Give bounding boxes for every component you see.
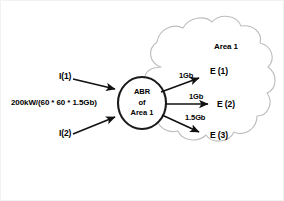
input-label-2: I(2) (59, 129, 71, 138)
input-arrow-1 (73, 79, 115, 89)
formula-label: 200kW/(60 * 60 * 1.5Gb) (11, 99, 97, 107)
diagram-canvas: Area 1 ABR of Area 1 200kW/(60 * 60 * 1.… (0, 0, 284, 201)
input-arrow-2 (73, 117, 115, 134)
cloud-shape (144, 16, 275, 141)
router-label-line-1: ABR (119, 87, 165, 98)
output-rate-1: 1Gb (179, 72, 193, 80)
output-label-1: E (1) (210, 67, 228, 76)
router-label-line-3: Area 1 (119, 108, 165, 119)
input-label-1: I(1) (59, 72, 71, 81)
output-label-2: E (2) (217, 100, 235, 109)
router-label-line-2: of (119, 98, 165, 109)
output-label-3: E (3) (210, 131, 228, 140)
router-label: ABR of Area 1 (119, 87, 165, 119)
cloud-label: Area 1 (214, 43, 238, 51)
output-rate-2: 1Gb (189, 93, 203, 101)
output-rate-3: 1.5Gb (185, 114, 205, 122)
